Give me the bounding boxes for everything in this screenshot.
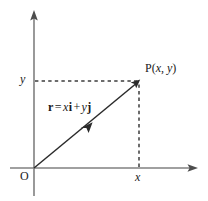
position-vector-line bbox=[34, 82, 138, 168]
vector-equation-label: r=xi+yj bbox=[48, 101, 92, 113]
point-p-close-paren: ) bbox=[172, 61, 176, 75]
vector-diagram-figure: y x O P(x, y) r=xi+yj bbox=[0, 0, 208, 201]
vector-symbol-r: r bbox=[48, 100, 54, 114]
vector-diagram-canvas bbox=[0, 0, 208, 201]
point-p-label: P(x, y) bbox=[145, 62, 176, 74]
equation-equals-sign: = bbox=[54, 100, 63, 114]
equation-j-unit-vector: j bbox=[87, 100, 91, 114]
x-axis-tick-label: x bbox=[135, 171, 140, 183]
y-axis-tick-label: y bbox=[20, 73, 25, 85]
origin-label: O bbox=[20, 170, 29, 182]
equation-plus-sign: + bbox=[72, 100, 81, 114]
point-p-name: P bbox=[145, 61, 152, 75]
